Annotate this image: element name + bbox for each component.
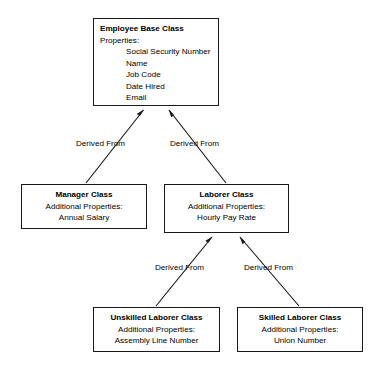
class-box-laborer-class[interactable]: Laborer Class Additional Properties: Hou… — [164, 184, 289, 233]
class-property: Annual Salary — [28, 212, 140, 224]
class-property: Name — [100, 58, 212, 70]
class-subtitle: Additional Properties: — [171, 201, 282, 213]
class-diagram-canvas: Employee Base Class Properties: Social S… — [0, 0, 371, 370]
class-box-employee-base-class[interactable]: Employee Base Class Properties: Social S… — [93, 18, 219, 106]
class-property: Union Number — [244, 335, 356, 347]
class-property: Assembly Line Number — [100, 335, 213, 347]
class-title: Unskilled Laborer Class — [100, 312, 213, 324]
class-property: Job Code — [100, 69, 212, 81]
class-title: Manager Class — [28, 189, 140, 201]
class-property: Social Security Number — [100, 46, 212, 58]
class-box-unskilled-laborer-class[interactable]: Unskilled Laborer Class Additional Prope… — [93, 307, 220, 352]
class-property: Email — [100, 92, 212, 104]
class-subtitle: Additional Properties: — [28, 201, 140, 213]
class-title: Skilled Laborer Class — [244, 312, 356, 324]
class-subtitle: Additional Properties: — [100, 324, 213, 336]
class-subtitle: Properties: — [100, 35, 212, 47]
class-box-skilled-laborer-class[interactable]: Skilled Laborer Class Additional Propert… — [237, 307, 363, 352]
class-title: Laborer Class — [171, 189, 282, 201]
edge-label-skilled-to-laborer: Derived From — [244, 263, 293, 273]
class-property: Hourly Pay Rate — [171, 212, 282, 224]
class-box-manager-class[interactable]: Manager Class Additional Properties: Ann… — [21, 184, 147, 229]
class-subtitle: Additional Properties: — [244, 324, 356, 336]
edge-label-laborer-to-employee: Derived From — [170, 139, 219, 149]
class-property: Date Hired — [100, 81, 212, 93]
class-title: Employee Base Class — [100, 23, 212, 35]
edge-label-unskilled-to-laborer: Derived From — [155, 263, 204, 273]
edge-label-manager-to-employee: Derived From — [76, 139, 125, 149]
